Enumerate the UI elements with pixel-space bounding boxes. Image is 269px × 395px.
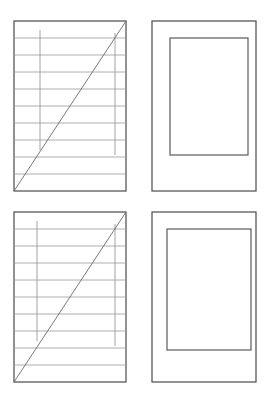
ruled-diagonal-panel-bottom-left xyxy=(14,212,126,382)
figure-canvas xyxy=(0,0,269,395)
ruled-diagonal-panel-top-left xyxy=(14,21,126,191)
inner-rectangle-top-right xyxy=(170,38,248,155)
figure-drawing xyxy=(0,0,269,395)
nested-rect-panel-top-right xyxy=(152,21,256,191)
inner-rectangle-bottom-right xyxy=(167,229,251,350)
nested-rect-panel-bottom-right xyxy=(152,212,256,382)
